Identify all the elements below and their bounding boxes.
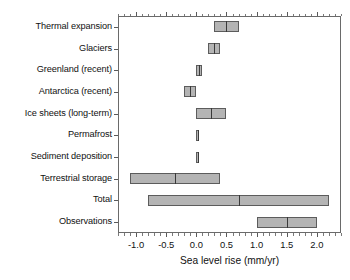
x-tick-minor-top	[130, 14, 131, 17]
x-tick-minor-top	[202, 14, 203, 17]
x-tick-minor	[299, 233, 300, 236]
y-axis-label-terrestrial-storage: Terrestrial storage	[40, 173, 112, 183]
bar-center-line	[198, 152, 199, 163]
bar-center-line	[214, 43, 215, 54]
y-axis-label-glaciers: Glaciers	[79, 43, 112, 53]
x-tick-minor	[208, 233, 209, 236]
x-tick-minor-top	[311, 14, 312, 17]
x-tick-major	[226, 233, 227, 237]
x-tick-minor-top	[299, 14, 300, 17]
x-tick-minor	[148, 233, 149, 236]
x-tick-major-top	[166, 12, 167, 16]
x-tick-minor	[130, 233, 131, 236]
x-tick-minor	[263, 233, 264, 236]
x-tick-minor-top	[142, 14, 143, 17]
x-tick-minor-top	[245, 14, 246, 17]
x-tick-minor-top	[275, 14, 276, 17]
bar-center-line	[287, 217, 288, 228]
x-tick-minor	[214, 233, 215, 236]
y-tick	[114, 179, 118, 180]
x-tick-minor-top	[220, 14, 221, 17]
x-tick-minor	[251, 233, 252, 236]
sea-level-rise-chart: Thermal expansionGlaciersGreenland (rece…	[0, 0, 350, 280]
bar-center-line	[175, 173, 176, 184]
x-tick-minor-top	[184, 14, 185, 17]
bar-center-line	[198, 130, 199, 141]
y-axis-label-thermal-expansion: Thermal expansion	[36, 21, 112, 31]
x-tick-major-top	[196, 12, 197, 16]
x-tick-minor	[172, 233, 173, 236]
x-axis-title: Sea level rise (mm/yr)	[0, 255, 350, 266]
x-tick-minor-top	[251, 14, 252, 17]
x-tick-minor	[154, 233, 155, 236]
x-tick-minor	[245, 233, 246, 236]
x-tick-minor	[184, 233, 185, 236]
y-tick	[114, 49, 118, 50]
x-tick-minor	[220, 233, 221, 236]
y-axis-label-antarctica-recent: Antarctica (recent)	[39, 86, 112, 96]
x-tick-minor	[190, 233, 191, 236]
y-axis-label-greenland-recent: Greenland (recent)	[37, 64, 112, 74]
x-tick-minor	[311, 233, 312, 236]
x-tick-minor	[335, 233, 336, 236]
x-tick-major-top	[287, 12, 288, 16]
y-tick	[114, 222, 118, 223]
bar-center-line	[199, 65, 200, 76]
x-tick-minor	[118, 233, 119, 236]
y-tick	[114, 200, 118, 201]
x-tick-major	[317, 233, 318, 237]
x-tick-minor	[202, 233, 203, 236]
x-tick-minor	[124, 233, 125, 236]
x-tick-label: 2.0	[297, 239, 337, 250]
x-tick-minor	[329, 233, 330, 236]
x-tick-minor-top	[214, 14, 215, 17]
x-tick-minor	[269, 233, 270, 236]
y-tick	[114, 92, 118, 93]
x-tick-major-top	[317, 12, 318, 16]
x-tick-minor	[323, 233, 324, 236]
x-tick-major	[196, 233, 197, 237]
x-tick-minor	[239, 233, 240, 236]
y-axis-label-sediment-deposition: Sediment deposition	[31, 151, 112, 161]
y-axis-label-permafrost: Permafrost	[68, 129, 112, 139]
bar-center-line	[211, 108, 212, 119]
x-tick-major	[136, 233, 137, 237]
x-tick-minor-top	[172, 14, 173, 17]
x-tick-major	[257, 233, 258, 237]
y-tick	[114, 157, 118, 158]
x-tick-minor-top	[118, 14, 119, 17]
x-tick-minor-top	[293, 14, 294, 17]
y-tick	[114, 27, 118, 28]
x-tick-major-top	[136, 12, 137, 16]
x-tick-major	[166, 233, 167, 237]
x-tick-minor-top	[263, 14, 264, 17]
x-tick-minor-top	[160, 14, 161, 17]
x-tick-minor-top	[190, 14, 191, 17]
x-tick-major	[287, 233, 288, 237]
x-tick-minor	[341, 233, 342, 236]
x-tick-minor	[142, 233, 143, 236]
x-tick-minor	[275, 233, 276, 236]
x-tick-minor-top	[335, 14, 336, 17]
x-tick-minor-top	[208, 14, 209, 17]
x-tick-minor-top	[269, 14, 270, 17]
y-tick	[114, 114, 118, 115]
x-tick-minor-top	[323, 14, 324, 17]
bar-center-line	[226, 21, 227, 32]
x-tick-minor-top	[233, 14, 234, 17]
y-axis-label-ice-sheets-long-term: Ice sheets (long-term)	[25, 108, 112, 118]
x-tick-major-top	[257, 12, 258, 16]
y-tick	[114, 70, 118, 71]
y-axis-label-observations: Observations	[59, 216, 112, 226]
x-tick-minor	[160, 233, 161, 236]
x-tick-minor	[305, 233, 306, 236]
x-tick-minor-top	[239, 14, 240, 17]
bar-center-line	[190, 86, 191, 97]
x-tick-minor	[178, 233, 179, 236]
x-tick-minor-top	[154, 14, 155, 17]
x-tick-minor-top	[148, 14, 149, 17]
x-tick-minor-top	[124, 14, 125, 17]
x-tick-minor-top	[281, 14, 282, 17]
x-tick-minor-top	[341, 14, 342, 17]
x-tick-minor	[233, 233, 234, 236]
